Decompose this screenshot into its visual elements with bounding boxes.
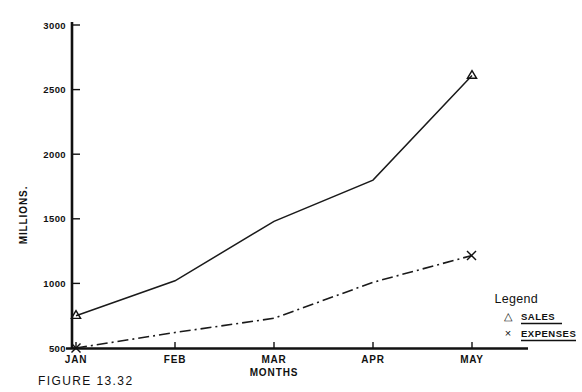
series-line-expenses bbox=[76, 256, 472, 349]
x-axis-title: MONTHS bbox=[250, 367, 299, 378]
figure-root: 3000 2500 2000 1500 1000 500 MILLIONS. J… bbox=[0, 0, 582, 392]
legend-label-sales: SALES bbox=[521, 311, 555, 322]
y-axis-tick-labels: 3000 2500 2000 1500 1000 500 bbox=[43, 20, 66, 354]
x-label-mar: MAR bbox=[261, 354, 286, 365]
x-axis-category-labels: JAN FEB MAR APR MAY bbox=[65, 354, 484, 365]
x-marker-icon: × bbox=[505, 327, 511, 339]
legend-title: Legend bbox=[494, 292, 538, 306]
triangle-marker-icon: △ bbox=[504, 310, 513, 322]
x-label-jan: JAN bbox=[65, 354, 87, 365]
y-tick-label-1000: 1000 bbox=[43, 278, 66, 289]
legend-item-expenses: × EXPENSES bbox=[505, 327, 576, 341]
marker-sales-may bbox=[467, 71, 476, 79]
figure-caption: FIGURE 13.32 bbox=[38, 374, 134, 388]
x-label-may: MAY bbox=[460, 354, 484, 365]
y-tick-label-2000: 2000 bbox=[43, 149, 66, 160]
marker-expenses-may bbox=[467, 251, 476, 260]
legend-item-sales: △ SALES bbox=[504, 310, 562, 324]
line-chart: 3000 2500 2000 1500 1000 500 MILLIONS. J… bbox=[0, 0, 582, 392]
x-label-feb: FEB bbox=[164, 354, 186, 365]
series-markers-sales bbox=[71, 71, 476, 319]
series-line-sales bbox=[76, 76, 472, 316]
y-tick-label-3000: 3000 bbox=[43, 20, 66, 31]
series-markers-expenses bbox=[72, 251, 477, 353]
y-tick-label-500: 500 bbox=[49, 343, 66, 354]
y-axis-title: MILLIONS. bbox=[18, 186, 29, 245]
legend-label-expenses: EXPENSES bbox=[521, 328, 576, 339]
y-tick-label-2500: 2500 bbox=[43, 84, 66, 95]
chart-legend: Legend △ SALES × EXPENSES bbox=[494, 292, 576, 341]
y-tick-label-1500: 1500 bbox=[43, 213, 66, 224]
x-axis-ticks bbox=[76, 342, 472, 348]
x-label-apr: APR bbox=[361, 354, 385, 365]
